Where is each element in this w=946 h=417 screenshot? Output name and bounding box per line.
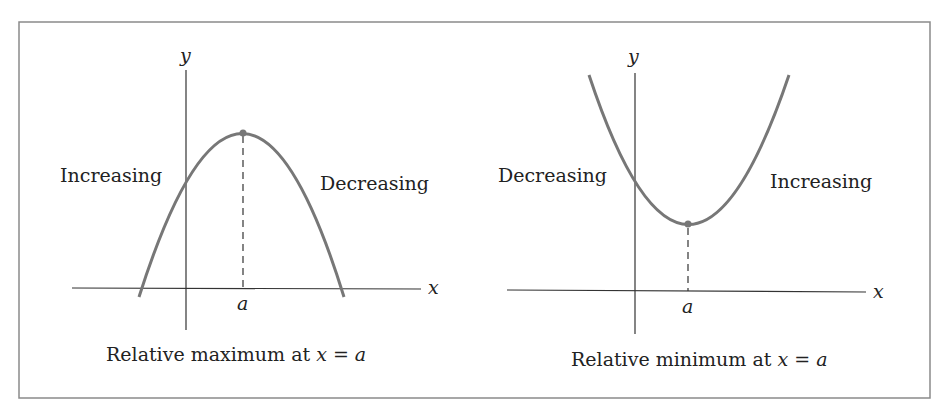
right-caption-text: Relative minimum at (571, 348, 777, 370)
right-caption-val: a (816, 348, 827, 370)
left-caption: Relative maximum at x = a (106, 343, 366, 365)
left-caption-var: x (316, 343, 327, 365)
right-caption-var: x (777, 348, 788, 370)
right-caption: Relative minimum at x = a (571, 348, 827, 370)
right-panel: y x a Decreasing Increasing Relative min… (498, 45, 884, 370)
right-decreasing-label: Decreasing (498, 164, 607, 186)
right-y-label: y (627, 45, 639, 67)
left-decreasing-label: Decreasing (320, 172, 429, 194)
diagram-canvas: y x a Increasing Decreasing Relative max… (0, 0, 946, 417)
figure-frame (19, 22, 930, 398)
left-parabola-curve (139, 134, 344, 298)
left-panel: y x a Increasing Decreasing Relative max… (60, 44, 439, 365)
left-caption-val: a (355, 343, 366, 365)
left-tick-a: a (237, 292, 248, 314)
left-x-axis (72, 288, 421, 289)
left-increasing-label: Increasing (60, 164, 162, 186)
left-caption-text: Relative maximum at (106, 343, 316, 365)
left-max-point (240, 130, 247, 137)
left-x-label: x (428, 276, 439, 298)
left-y-label: y (179, 44, 191, 66)
right-increasing-label: Increasing (770, 170, 872, 192)
left-caption-eq: = (327, 343, 355, 365)
right-tick-a: a (682, 295, 693, 317)
right-x-axis (507, 290, 866, 292)
right-min-point (685, 221, 692, 228)
right-parabola-curve (589, 75, 789, 225)
right-x-label: x (873, 280, 884, 302)
right-caption-eq: = (788, 348, 816, 370)
